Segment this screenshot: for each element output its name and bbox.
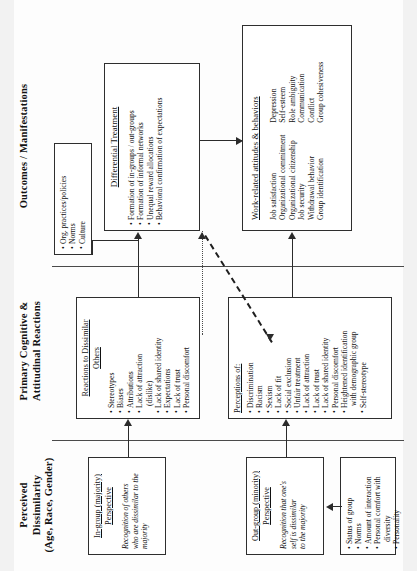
- perceptions-item-12: Self-stereotype: [359, 303, 368, 413]
- workrelated-col1-item-2: Organizational citizenship: [288, 135, 297, 220]
- differential-list: Formation of in-groups / out-groups Form…: [127, 69, 165, 225]
- reactions-item-3: Lack of attraction: [135, 303, 144, 413]
- outgroup-italic-line1: Recognition that one's: [279, 463, 289, 549]
- perceptions-item-5: Unfair treatment: [293, 303, 302, 413]
- header-primary-cognitive-attitudinal-reactions: Primary Cognitive & Attitudinal Reaction…: [18, 271, 43, 431]
- perceptions-item-6: Lack of attraction: [302, 303, 311, 413]
- panel-divider-left: [52, 440, 404, 441]
- arrowhead-reactions-to-differential: [134, 232, 142, 239]
- differential-title: Differential Treatment: [109, 69, 119, 225]
- workrelated-col1-item-3: Job security: [297, 135, 306, 220]
- arrowhead-ingroup-to-reactions: [124, 419, 132, 426]
- perceptions-item-2: Sexism: [265, 303, 274, 413]
- reactions-item-7: Lack of trust: [173, 303, 182, 413]
- org-item-2: Culture: [78, 149, 87, 249]
- moderators-item-2: Amount of interaction: [364, 463, 373, 549]
- perceptions-item-3: Lack of fit: [274, 303, 283, 413]
- workrelated-col2-item-0: Depression: [269, 62, 278, 123]
- workrelated-col1-item-0: Job satisfaction: [269, 135, 278, 220]
- outgroup-italic-line2: self is dissimilar: [289, 463, 299, 549]
- perceptions-title: Perceptions of:: [233, 303, 243, 413]
- perceptions-item-8: Lack of shared identity: [321, 303, 330, 413]
- workrelated-col2-item-1: Self-esteem: [278, 62, 287, 123]
- box-ingroup-perspective: In-group (majority) Perspective Recognit…: [88, 457, 166, 555]
- workrelated-col2-item-4: Conflict: [307, 62, 316, 123]
- outgroup-italic-line3: to the majority: [298, 463, 308, 549]
- moderators-item-5: Personality: [392, 463, 401, 549]
- moderators-list: Status of group Norms Amount of interact…: [345, 463, 401, 549]
- moderators-item-3: Personal comfort with: [373, 463, 382, 549]
- moderators-item-4: diversity: [383, 463, 392, 549]
- connector-org-vertical: [92, 240, 138, 241]
- box-org-practices: Org. practices/policies Norms Culture: [54, 143, 92, 255]
- workrelated-column-1: Job satisfaction Organizational commitme…: [269, 135, 325, 220]
- header-col1-line1: Perceived: [18, 445, 31, 565]
- workrelated-col1-item-1: Organizational commitment: [278, 135, 287, 220]
- box-moderators: Status of group Norms Amount of interact…: [340, 457, 396, 555]
- workrelated-col1-item-5: Group identification: [316, 135, 325, 220]
- connector-reactions-to-differential: [138, 239, 139, 297]
- diagram-canvas: Perceived Dissimilarity (Age, Race, Gend…: [0, 0, 417, 571]
- differential-item-1: Formation of informal networks: [136, 69, 145, 225]
- ingroup-title-line2: Perspective: [104, 463, 114, 549]
- outgroup-title-line1: Out-group (minority): [251, 463, 261, 549]
- rotated-figure-wrapper: Perceived Dissimilarity (Age, Race, Gend…: [0, 0, 417, 571]
- org-list: Org. practices/policies Norms Culture: [59, 149, 87, 249]
- reactions-item-4: (dislike): [145, 303, 154, 413]
- header-outcomes-manifestations: Outcomes / Manifestations: [18, 31, 31, 261]
- arrowhead-moderators-to-outgroup: [326, 503, 333, 511]
- box-perceptions-of: Perceptions of: Discrimination Racism Se…: [228, 297, 392, 419]
- header-perceived-dissimilarity: Perceived Dissimilarity (Age, Race, Gend…: [18, 445, 56, 565]
- box-reactions-to-dissimilar-others: Reactions to Dissimilar Others Stereotyp…: [76, 297, 200, 419]
- arrowhead-dashed-to-perceptions: [266, 334, 274, 341]
- workrelated-columns: Job satisfaction Organizational commitme…: [269, 36, 325, 220]
- panel-divider-right: [52, 266, 404, 267]
- connector-moderators-vertical: [332, 506, 342, 507]
- ingroup-italic-line1: Recognition of others: [121, 463, 131, 549]
- workrelated-col2-item-3: Communication: [297, 62, 306, 123]
- perceptions-item-7: Lack of trust: [312, 303, 321, 413]
- perceptions-item-10: Heightened identification: [340, 303, 349, 413]
- perceptions-item-9: Personal discomfort: [331, 303, 340, 413]
- differential-item-3: Behavioral confirmation of expectations: [155, 69, 164, 225]
- reactions-item-2: Attributions: [126, 303, 135, 413]
- reactions-item-5: Lack of shared identity: [154, 303, 163, 413]
- workrelated-title: Work-related attitudes & behaviors: [250, 36, 260, 220]
- reactions-item-8: Personal discomfort: [182, 303, 191, 413]
- moderators-item-0: Status of group: [345, 463, 354, 549]
- header-col2-line2: Attitudinal Reactions: [31, 271, 44, 431]
- workrelated-col1-item-4: Withdrawal behavior: [307, 135, 316, 220]
- reactions-list: Stereotypes Biases Attributions Lack of …: [107, 303, 192, 413]
- connector-ingroup-to-reactions: [128, 426, 129, 457]
- perceptions-item-11: with demographic group: [349, 303, 358, 413]
- outgroup-title-line2: Perspective: [262, 463, 272, 549]
- reactions-title-line1: Reactions to Dissimilar: [81, 303, 91, 413]
- box-differential-treatment: Differential Treatment Formation of in-g…: [104, 63, 200, 231]
- perceptions-list: Discrimination Racism Sexism Lack of fit…: [246, 303, 368, 413]
- differential-item-0: Formation of in-groups / out-groups: [127, 69, 136, 225]
- connector-outgroup-to-perceptions: [286, 426, 287, 457]
- arrowhead-outgroup-to-perceptions: [282, 419, 290, 426]
- scan-artifact-band-bottom: [403, 0, 417, 571]
- connector-org-horizontal: [92, 241, 93, 255]
- reactions-title-line2: Others: [92, 303, 102, 413]
- box-work-related-attitudes-behaviors: Work-related attitudes & behaviors Job s…: [242, 25, 352, 231]
- ingroup-italic-line3: majority: [140, 463, 150, 549]
- workrelated-col2-item-5: Group cohesiveness: [316, 62, 325, 123]
- org-item-1: Norms: [68, 149, 77, 249]
- reactions-item-1: Biases: [116, 303, 125, 413]
- perceptions-item-4: Social exclusion: [284, 303, 293, 413]
- scan-artifact-band-top: [0, 0, 14, 571]
- header-col1-line3: (Age, Race, Gender): [43, 445, 56, 565]
- arrowhead-differential-to-workrelated: [236, 137, 243, 145]
- connector-perceptions-to-workrelated: [292, 239, 293, 297]
- header-col1-line2: Dissimilarity: [31, 445, 44, 565]
- workrelated-col2-item-2: Role ambiguity: [288, 62, 297, 123]
- org-item-0: Org. practices/policies: [59, 149, 68, 249]
- feedback-dotted-line: [202, 231, 203, 335]
- perceptions-item-0: Discrimination: [246, 303, 255, 413]
- arrowhead-perceptions-to-workrelated: [288, 232, 296, 239]
- workrelated-column-2: Depression Self-esteem Role ambiguity Co…: [269, 62, 325, 123]
- ingroup-italic-line2: who are dissimilar to the: [131, 463, 141, 549]
- reactions-item-0: Stereotypes: [107, 303, 116, 413]
